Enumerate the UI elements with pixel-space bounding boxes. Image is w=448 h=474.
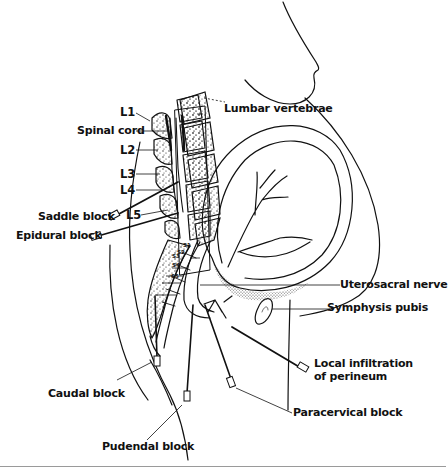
label-uterosacral-nerve: Uterosacral nerve: [340, 279, 448, 291]
uterine-vessels: [228, 170, 312, 267]
label-l1: L1: [120, 106, 135, 118]
label-s5: S5: [171, 273, 179, 279]
label-l3: L3: [120, 168, 135, 180]
label-spinal-cord: Spinal cord: [77, 125, 145, 137]
thigh-line: [288, 300, 290, 410]
label-epidural-block: Epidural block: [16, 230, 102, 242]
label-s3: S3: [172, 253, 180, 259]
label-l5: L5: [126, 209, 141, 221]
paracervical-block-needle: [205, 305, 231, 379]
buttock-curve: [110, 245, 148, 400]
bottom-rule: [0, 466, 446, 467]
label-l4: L4: [120, 184, 135, 196]
label-paracervical-block: Paracervical block: [293, 407, 402, 419]
label-lumbar-vertebrae: Lumbar vertebrae: [224, 103, 333, 115]
label-symphysis-pubis: Symphysis pubis: [327, 302, 428, 314]
symphysis-pubis: [255, 299, 272, 324]
uterus-outer: [202, 126, 352, 291]
local-infiltration-needle: [232, 327, 301, 368]
label-s1: S1: [183, 242, 191, 248]
label-local-infiltration-line2: of perineum: [314, 371, 387, 383]
breast-outline: [245, 2, 319, 104]
label-saddle-block: Saddle block: [38, 211, 115, 223]
pudendal-block-needle: [187, 305, 193, 393]
label-pudendal-block: Pudendal block: [102, 441, 194, 453]
label-caudal-block: Caudal block: [48, 388, 125, 400]
label-s4: S4: [172, 262, 180, 268]
label-l2: L2: [120, 144, 135, 156]
label-local-infiltration-line1: Local infiltration: [314, 358, 413, 370]
perineum-curve: [150, 360, 172, 405]
